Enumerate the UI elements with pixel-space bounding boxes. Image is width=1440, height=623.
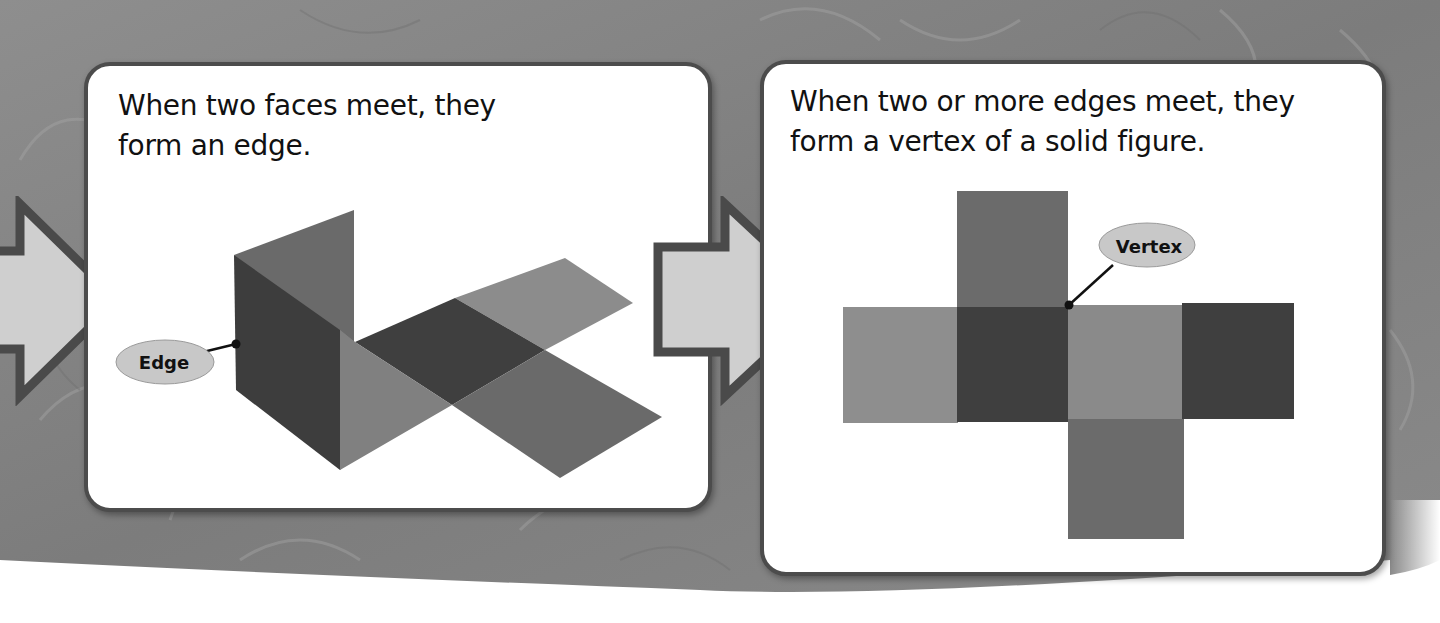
edge-panel: When two faces meet, they form an edge. …	[84, 62, 712, 512]
vertex-point	[1065, 301, 1074, 310]
vertex-panel: When two or more edges meet, they form a…	[760, 60, 1386, 576]
net-right-face	[1068, 305, 1182, 419]
edge-label: Edge	[119, 352, 209, 373]
net-bottom-face	[1068, 419, 1184, 539]
net-top-face	[957, 191, 1068, 308]
vertex-label: Vertex	[1103, 236, 1195, 257]
edge-point	[232, 340, 241, 349]
cube-net-figure	[760, 60, 1386, 576]
net-left-face	[843, 307, 958, 423]
net-far-right-face	[1182, 303, 1294, 419]
net-center-face	[957, 307, 1069, 422]
folded-net-figure	[84, 62, 704, 502]
